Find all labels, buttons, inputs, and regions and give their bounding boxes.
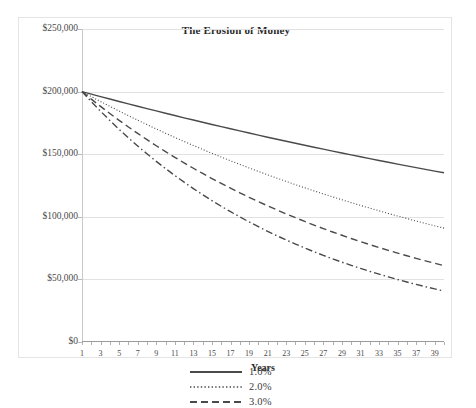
chart-frame: The Erosion of Money $0$50,000$100,000$1… <box>18 17 452 358</box>
legend-item-label: 3.0% <box>249 396 272 407</box>
x-axis-tick-mark <box>305 342 306 345</box>
x-axis-tick-label: 11 <box>165 349 185 358</box>
y-axis-tick-label: $100,000 <box>8 211 78 221</box>
x-axis-tick-mark <box>416 342 417 345</box>
x-axis-tick-mark <box>425 342 426 345</box>
x-axis-tick-label: 15 <box>202 349 222 358</box>
x-axis-tick-mark <box>221 342 222 345</box>
x-axis-tick-mark <box>295 342 296 345</box>
x-axis-tick-mark <box>166 342 167 345</box>
x-axis-tick-mark <box>175 342 176 345</box>
x-axis-tick-mark <box>128 342 129 345</box>
x-axis-tick-label: 13 <box>183 349 203 358</box>
x-axis-tick-mark <box>119 342 120 345</box>
x-axis-tick-mark <box>203 342 204 345</box>
legend-line-swatch <box>190 397 242 407</box>
x-axis-tick-mark <box>360 342 361 345</box>
x-axis-tick-label: 31 <box>350 349 370 358</box>
x-axis-tick-mark <box>212 342 213 345</box>
x-axis-tick-mark <box>82 342 83 345</box>
x-axis-tick-mark <box>342 342 343 345</box>
x-axis-tick-label: 9 <box>146 349 166 358</box>
x-axis-tick-mark <box>351 342 352 345</box>
x-axis-tick-mark <box>231 342 232 345</box>
plot-area: $0$50,000$100,000$150,000$200,000$250,00… <box>82 29 444 342</box>
x-axis-tick-label: 1 <box>72 349 92 358</box>
x-axis-tick-mark <box>444 342 445 345</box>
x-axis-tick-mark <box>138 342 139 345</box>
legend-line-swatch <box>190 367 242 377</box>
series-lines <box>82 29 444 342</box>
x-axis-tick-mark <box>101 342 102 345</box>
y-axis-tick-label: $0 <box>8 336 78 346</box>
x-axis-tick-mark <box>370 342 371 345</box>
x-axis-tick-mark <box>249 342 250 345</box>
x-axis-tick-label: 25 <box>295 349 315 358</box>
series-line-3-0pct <box>82 92 444 266</box>
x-axis-tick-label: 19 <box>239 349 259 358</box>
x-axis-tick-mark <box>240 342 241 345</box>
x-axis-tick-label: 7 <box>128 349 148 358</box>
y-axis-tick-label: $50,000 <box>8 273 78 283</box>
series-line-4-0pct <box>82 92 444 291</box>
x-axis-tick-mark <box>147 342 148 345</box>
clipped-header-text <box>0 0 476 5</box>
x-axis-tick-mark <box>91 342 92 345</box>
legend-item-label: 2.0% <box>249 381 272 392</box>
x-axis-tick-mark <box>110 342 111 345</box>
x-axis-tick-label: 35 <box>388 349 408 358</box>
x-axis-tick-mark <box>314 342 315 345</box>
x-axis-tick-label: 23 <box>276 349 296 358</box>
x-axis-tick-label: 27 <box>313 349 333 358</box>
x-axis-tick-mark <box>277 342 278 345</box>
x-axis-tick-mark <box>435 342 436 345</box>
x-axis-tick-mark <box>268 342 269 345</box>
x-axis-tick-label: 3 <box>91 349 111 358</box>
x-axis-tick-mark <box>407 342 408 345</box>
legend-line-swatch <box>190 382 242 392</box>
series-line-2-0pct <box>82 92 444 229</box>
x-axis-tick-label: 17 <box>221 349 241 358</box>
chart-page: The Erosion of Money $0$50,000$100,000$1… <box>0 0 476 408</box>
x-axis-tick-mark <box>333 342 334 345</box>
x-axis-tick-mark <box>184 342 185 345</box>
x-axis-tick-mark <box>156 342 157 345</box>
x-axis-tick-label: 5 <box>109 349 129 358</box>
legend-item[interactable]: 1.0% <box>0 364 476 379</box>
x-axis-tick-label: 33 <box>369 349 389 358</box>
y-axis-tick-label: $250,000 <box>8 23 78 33</box>
x-axis-tick-label: 29 <box>332 349 352 358</box>
legend-item-label: 1.0% <box>249 366 272 377</box>
x-axis-tick-mark <box>388 342 389 345</box>
chart-legend: 1.0%2.0%3.0% <box>0 364 476 408</box>
y-axis-tick-label: $200,000 <box>8 86 78 96</box>
y-axis-tick-label: $150,000 <box>8 148 78 158</box>
x-axis-tick-mark <box>379 342 380 345</box>
x-axis-tick-mark <box>286 342 287 345</box>
x-axis-tick-mark <box>398 342 399 345</box>
x-axis-tick-label: 39 <box>425 349 445 358</box>
legend-item[interactable]: 3.0% <box>0 394 476 408</box>
legend-item[interactable]: 2.0% <box>0 379 476 394</box>
x-axis-tick-mark <box>258 342 259 345</box>
x-axis-tick-mark <box>323 342 324 345</box>
x-axis-tick-mark <box>193 342 194 345</box>
x-axis-tick-label: 37 <box>406 349 426 358</box>
x-axis-tick-label: 21 <box>258 349 278 358</box>
